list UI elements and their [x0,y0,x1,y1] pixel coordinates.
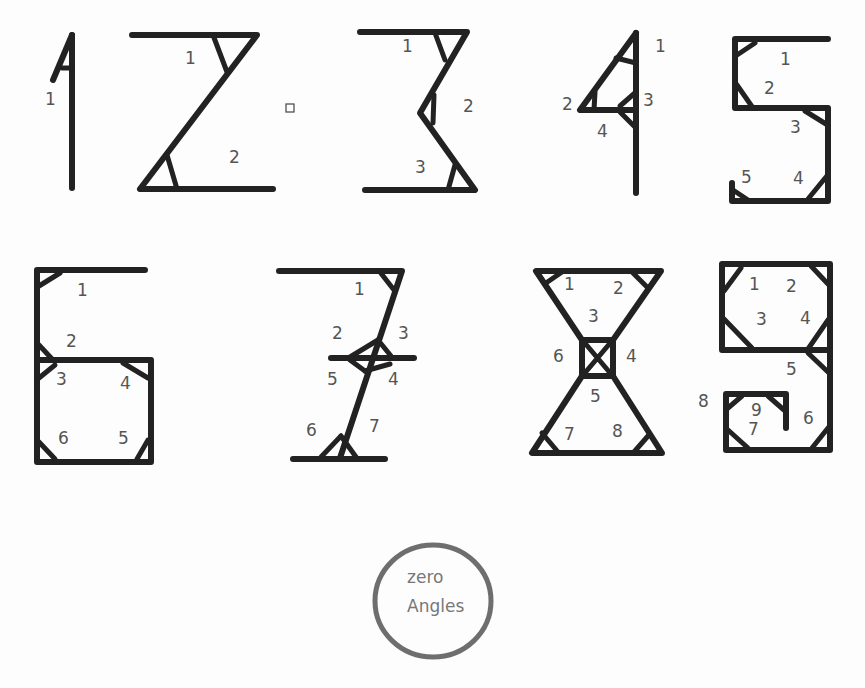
digit-3: 1 2 3 [360,32,475,190]
digit-9-angle-arc-4 [808,320,828,349]
diagram-canvas: 1 1 2 1 2 3 1 2 3 4 [0,0,865,688]
digit-9-label-8: 8 [698,391,709,411]
digit-8-label-8: 8 [612,421,623,441]
digit-8-angle-arc-8 [634,436,648,452]
digit-2: 1 2 [132,35,273,189]
digit-4-label-2: 2 [562,94,573,114]
digit-3-label-1: 1 [402,36,413,56]
digit-2-label-1: 1 [185,48,196,68]
digit-6-angle-arc-6 [39,442,55,459]
digit-4: 1 2 3 4 [562,33,666,193]
digit-7-angle-arc-3 [378,340,391,356]
digit-6-label-4: 4 [120,373,131,393]
digit-7-angle-arc-6 [321,436,341,457]
digit-7-label-6: 6 [306,420,317,440]
digit-9-label-3: 3 [756,309,767,329]
digit-9-angle-arc-9 [768,396,784,410]
digit-6-label-3: 3 [56,369,67,389]
digit-7-angle-arc-5 [350,360,365,371]
digit-6-label-6: 6 [58,428,69,448]
digit-8-label-6: 6 [553,346,564,366]
digit-6-label-5: 5 [118,428,129,448]
digit-4-label-1: 1 [655,36,666,56]
digit-5-angle-arc-3 [805,111,826,124]
digit-9-label-4: 4 [800,308,811,328]
digit-7-label-1: 1 [354,279,365,299]
digit-8-angle-arc-2 [632,272,648,288]
digit-8-label-5: 5 [590,386,601,406]
digit-6-angle-arc-3 [39,365,55,378]
digit-5-angle-arc-1 [737,43,755,55]
digit-7-label-5: 5 [327,369,338,389]
digit-6-label-1: 1 [77,280,88,300]
digit-2-outline [132,35,273,189]
zero-label-line2: Angles [407,596,464,616]
digit-9-angle-arc-1 [724,268,741,291]
digit-3-angle-arc-3 [448,165,455,190]
digit-6: 1 2 3 4 5 6 [37,270,151,462]
digit-2-angle-arc-1 [213,35,227,72]
digit-6-angle-arc-5 [137,440,148,459]
digit-8-angle-arc-7 [542,433,558,452]
zero-label-line1: zero [407,567,443,587]
digit-6-angle-arc-1 [39,273,60,286]
digit-7-label-7: 7 [369,416,380,436]
digit-0: zero Angles [375,545,491,657]
digit-9-label-6: 6 [803,408,814,428]
digit-8: 1 2 3 4 5 6 7 8 [532,271,662,453]
digit-8-label-7: 7 [564,424,575,444]
digit-1-label-1: 1 [45,89,56,109]
digit-4-angle-arc-2 [594,92,595,110]
digit-9-angle-arc-5 [808,353,828,372]
digit-9-tail [726,350,830,450]
digit-angles-diagram: 1 1 2 1 2 3 1 2 3 4 [0,0,865,688]
digit-5: 1 2 3 4 5 [732,39,828,201]
small-square-marker [286,104,294,112]
digit-5-label-1: 1 [780,49,791,69]
digit-9-label-5: 5 [786,359,797,379]
digit-4-label-3: 3 [643,90,654,110]
digit-4-label-4: 4 [597,121,608,141]
digit-9-angle-arc-6 [812,428,828,448]
digit-5-label-5: 5 [741,167,752,187]
digit-2-label-2: 2 [229,147,240,167]
digit-3-angle-arc-1 [435,33,445,60]
digit-8-label-4: 4 [626,346,637,366]
digit-9-angle-arc-7 [728,430,748,448]
digit-5-label-4: 4 [793,168,804,188]
digit-8-center-cross [584,342,611,374]
digit-5-label-2: 2 [764,78,775,98]
digit-8-label-1: 1 [564,274,575,294]
digit-9-angle-arc-2 [811,266,828,284]
digit-8-label-2: 2 [613,278,624,298]
digit-7-label-2: 2 [332,323,343,343]
digit-5-angle-arc-4 [808,177,826,199]
digit-1: 1 [45,35,72,188]
digit-7-label-4: 4 [388,369,399,389]
digit-9: 1 2 3 4 5 6 7 8 9 [698,264,830,450]
digit-9-label-9: 9 [751,400,762,420]
digit-5-label-3: 3 [790,117,801,137]
digit-7: 1 2 3 4 5 6 7 [279,271,414,459]
digit-8-label-3: 3 [588,306,599,326]
digit-3-label-3: 3 [415,157,426,177]
digit-9-label-7: 7 [748,419,759,439]
digit-5-angle-arc-2 [737,85,753,108]
digit-9-label-1: 1 [749,274,760,294]
digit-3-label-2: 2 [463,96,474,116]
digit-3-angle-arc-2 [433,95,434,123]
digit-7-label-3: 3 [398,323,409,343]
digit-2-angle-arc-2 [167,155,177,189]
digit-7-angle-arc-1 [380,272,394,290]
digit-9-angle-arc-3 [724,319,752,348]
digit-9-label-2: 2 [786,276,797,296]
digit-6-label-2: 2 [66,331,77,351]
digit-9-angle-arc-8 [728,396,742,408]
